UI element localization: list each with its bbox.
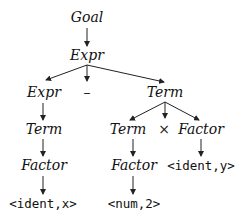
edge-arrow-term1-term3: [130, 102, 165, 120]
parse-tree-diagram: GoalExprExpr–TermTermTerm×FactorFactorFa…: [0, 0, 243, 218]
node-expr2: Expr: [26, 84, 62, 100]
node-term1: Term: [147, 84, 184, 100]
edge-arrow-expr1-term1: [87, 65, 164, 82]
node-term3: Term: [110, 121, 147, 137]
tree-canvas: GoalExprExpr–TermTermTerm×FactorFactorFa…: [0, 0, 243, 218]
node-goal: Goal: [71, 9, 103, 25]
node-identx: <ident,x>: [9, 196, 77, 211]
node-identy: <ident,y>: [167, 158, 235, 173]
node-times: ×: [158, 121, 170, 137]
node-expr1: Expr: [69, 47, 105, 63]
node-factor1: Factor: [177, 121, 225, 137]
node-term2: Term: [26, 121, 63, 137]
node-minus: –: [84, 84, 91, 100]
edge-arrow-expr1-expr2: [46, 65, 87, 80]
node-num2: <num,2>: [108, 196, 161, 211]
edge-arrow-term1-factor1: [165, 102, 199, 120]
node-factor2: Factor: [20, 157, 68, 173]
node-factor3: Factor: [110, 157, 158, 173]
